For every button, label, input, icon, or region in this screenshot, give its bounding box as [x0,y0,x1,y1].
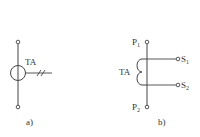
terminal-p1-icon [145,40,149,44]
figure-b: P1 P2 S1 S2 TA b) [119,37,189,127]
caption-a: a) [26,117,33,127]
device-label-a: TA [25,57,37,67]
label-p1: P1 [132,37,140,48]
caption-b: b) [158,117,166,127]
device-label-b: TA [119,67,131,77]
ct-diagram: TA a) P1 P2 S1 S2 TA b) [0,0,200,137]
label-s2: S2 [181,80,189,91]
label-s1: S1 [181,54,189,65]
coil-winding-icon [137,59,147,85]
label-p2: P2 [132,102,140,113]
terminal-top-a-icon [16,40,20,44]
terminal-s2-icon [176,83,180,87]
terminal-p2-icon [145,105,149,109]
terminal-bottom-a-icon [16,105,20,109]
figure-a: TA a) [11,40,53,127]
terminal-s1-icon [176,57,180,61]
